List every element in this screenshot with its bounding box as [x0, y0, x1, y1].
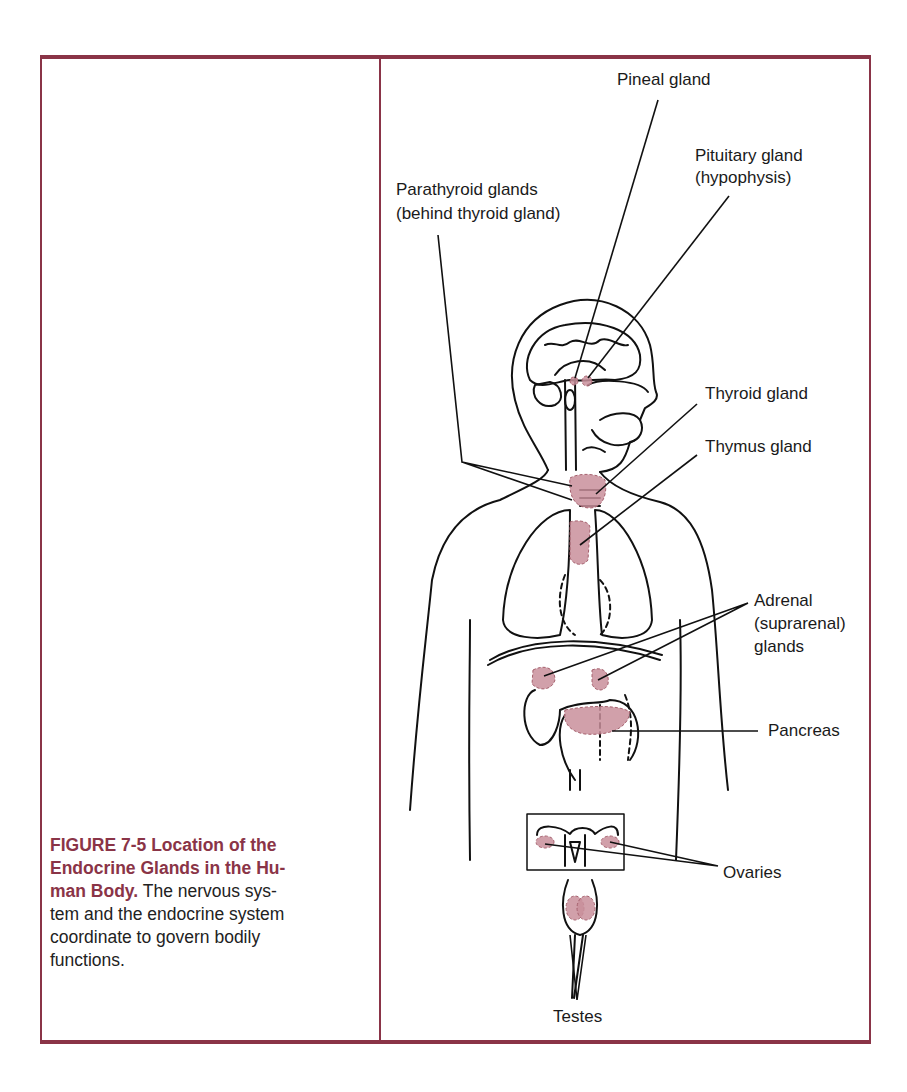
- label-thymus-gland: Thymus gland: [705, 436, 812, 457]
- parathyroid-leader: [438, 235, 572, 500]
- label-pituitary-line-1: Pituitary gland: [695, 145, 803, 166]
- torso-right: [600, 472, 728, 790]
- label-pineal-gland: Pineal gland: [617, 69, 711, 90]
- diaphragm: [488, 641, 662, 665]
- label-parathyroid-line-1: Parathyroid glands: [396, 179, 538, 200]
- label-ovaries: Ovaries: [723, 862, 782, 883]
- adrenal-left: [532, 667, 555, 689]
- arm-left-inner: [469, 620, 470, 860]
- label-pituitary-line-2: (hypophysis): [695, 167, 791, 188]
- thymus-gland: [570, 521, 590, 564]
- testis-right: [577, 896, 595, 920]
- pituitary-gland: [582, 376, 592, 386]
- label-thyroid-gland: Thyroid gland: [705, 383, 808, 404]
- pituitary-leader: [588, 196, 729, 378]
- cerebellum: [534, 382, 561, 406]
- torso-left: [410, 470, 548, 810]
- thyroid-gland: [570, 474, 606, 508]
- label-adrenal-line-1: Adrenal: [754, 590, 813, 611]
- label-parathyroid-line-2: (behind thyroid gland): [396, 203, 560, 224]
- ovary-left: [536, 836, 554, 848]
- thyroid-leader: [596, 404, 697, 494]
- label-adrenal-line-3: glands: [754, 636, 804, 657]
- arm-right-inner: [676, 620, 681, 860]
- label-adrenal-line-2: (suprarenal): [754, 613, 846, 634]
- lung-left: [503, 510, 570, 638]
- pancreas-gland: [564, 706, 630, 734]
- lung-right: [595, 510, 652, 638]
- pineal-gland: [570, 377, 578, 385]
- label-pancreas: Pancreas: [768, 720, 840, 741]
- pineal-leader: [575, 100, 658, 378]
- label-testes: Testes: [553, 1006, 602, 1027]
